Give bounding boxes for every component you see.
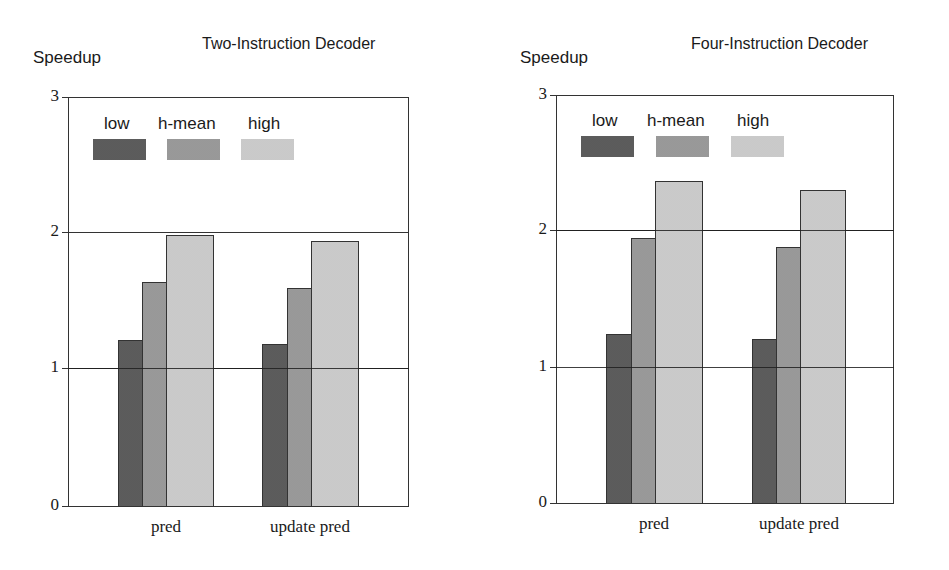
bar-update-pred-h-mean — [287, 288, 312, 506]
y-tick-label-0: 0 — [533, 492, 547, 512]
y-axis-label: Speedup — [33, 48, 101, 68]
bar-update-pred-high — [800, 190, 846, 503]
legend-swatch-high — [241, 139, 294, 160]
y-tick-label-2: 2 — [533, 219, 547, 239]
x-label-update-pred: update pred — [255, 517, 365, 537]
bar-pred-low — [118, 340, 143, 506]
bar-pred-h-mean — [142, 282, 167, 506]
x-label-pred: pred — [614, 514, 694, 534]
gridline-1 — [556, 367, 894, 368]
y-tick-3 — [550, 95, 557, 96]
gridline-2 — [68, 232, 409, 233]
y-tick-label-0: 0 — [45, 495, 59, 515]
legend-label-low: low — [104, 114, 130, 134]
y-tick-label-1: 1 — [533, 356, 547, 376]
y-tick-label-3: 3 — [45, 86, 59, 106]
legend-swatch-low — [581, 136, 634, 157]
legend-swatch-h-mean — [167, 139, 220, 160]
legend-swatch-h-mean — [656, 136, 709, 157]
bar-pred-low — [606, 334, 632, 503]
gridline-2-overlay — [556, 230, 894, 231]
legend-label-h-mean: h-mean — [158, 114, 216, 134]
legend-swatch-high — [731, 136, 784, 157]
legend-label-high: high — [248, 114, 280, 134]
y-tick-label-2: 2 — [45, 221, 59, 241]
bar-update-pred-low — [752, 339, 777, 503]
bar-pred-h-mean — [631, 238, 656, 503]
bar-pred-high — [166, 235, 214, 506]
y-tick-label-3: 3 — [533, 84, 547, 104]
bar-update-pred-h-mean — [776, 247, 801, 503]
chart-title: Four-Instruction Decoder — [691, 35, 868, 53]
y-tick-3 — [62, 97, 69, 98]
x-label-update-pred: update pred — [744, 514, 854, 534]
x-axis-line — [556, 503, 894, 504]
legend-label-low: low — [592, 111, 618, 131]
x-label-pred: pred — [126, 517, 206, 537]
legend-label-h-mean: h-mean — [647, 111, 705, 131]
chart-title: Two-Instruction Decoder — [202, 35, 375, 53]
gridline-1-overlay — [68, 368, 409, 369]
y-axis-label: Speedup — [520, 48, 588, 68]
legend-swatch-low — [93, 139, 146, 160]
y-tick-2 — [62, 232, 69, 233]
legend-label-high: high — [737, 111, 769, 131]
y-tick-label-1: 1 — [45, 357, 59, 377]
bar-update-pred-high — [311, 241, 359, 506]
x-axis-line — [68, 506, 409, 507]
